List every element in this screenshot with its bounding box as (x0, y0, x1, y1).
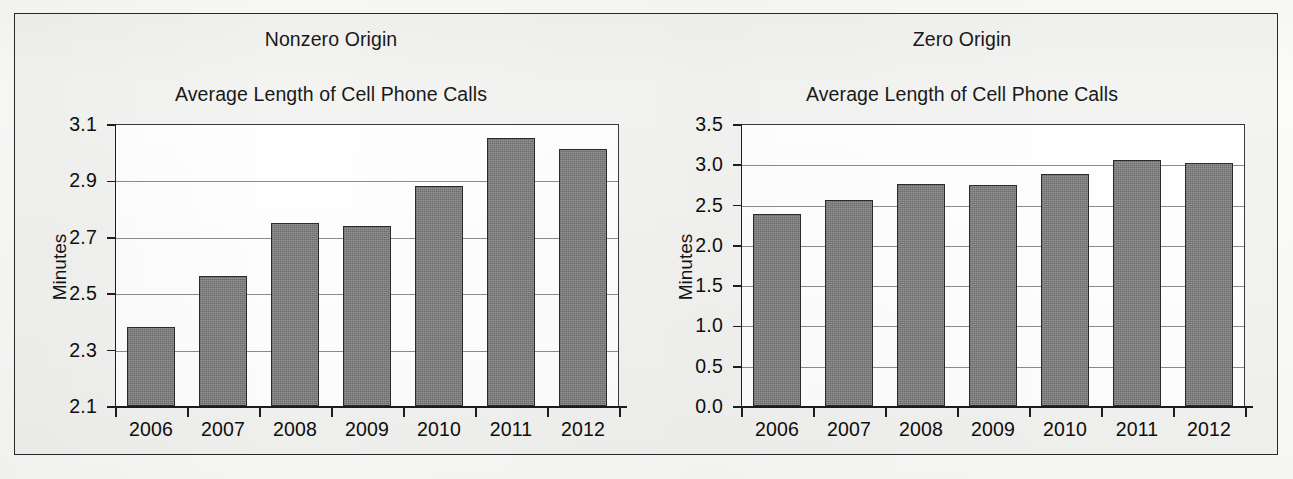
y-tick-label: 2.1 (69, 395, 97, 418)
y-tick-mark (733, 124, 742, 126)
y-tick-label: 2.5 (69, 282, 97, 305)
x-tick-label: 2009 (971, 418, 1015, 441)
bar (1113, 160, 1162, 406)
x-tick-mark (259, 406, 261, 417)
bar (127, 327, 176, 406)
x-tick-label: 2008 (273, 418, 317, 441)
y-tick-label: 0.5 (695, 354, 723, 377)
y-axis-tick-labels-left: 2.12.32.52.72.93.1 (43, 124, 105, 406)
x-tick-mark (187, 406, 189, 417)
bar (559, 149, 608, 406)
y-axis-tick-labels-right: 0.00.51.01.52.02.53.03.5 (669, 124, 731, 406)
x-tick-mark (619, 406, 621, 417)
figure-page: Nonzero Origin Average Length of Cell Ph… (0, 0, 1293, 479)
y-tick-label: 2.0 (695, 233, 723, 256)
chart-panel-nonzero-origin: Nonzero Origin Average Length of Cell Ph… (15, 14, 647, 456)
bar (271, 223, 320, 406)
y-tick-label: 0.0 (695, 395, 723, 418)
chart-title-left: Average Length of Cell Phone Calls (15, 83, 647, 106)
y-tick-mark (733, 164, 742, 166)
bar (897, 184, 946, 406)
bar (1185, 163, 1234, 406)
y-tick-mark (107, 350, 116, 352)
x-tick-mark (1173, 406, 1175, 417)
x-tick-label: 2009 (345, 418, 389, 441)
x-tick-label: 2011 (1116, 418, 1159, 441)
x-tick-mark (331, 406, 333, 417)
panel-heading-zero: Zero Origin (647, 28, 1277, 51)
y-tick-mark (733, 326, 742, 328)
x-tick-label: 2012 (561, 418, 605, 441)
y-tick-label: 3.5 (695, 113, 723, 136)
y-tick-mark (733, 285, 742, 287)
x-tick-label: 2010 (1043, 418, 1087, 441)
y-tick-mark (733, 245, 742, 247)
bar (343, 226, 392, 406)
x-tick-mark (1245, 406, 1247, 417)
x-tick-label: 2007 (201, 418, 245, 441)
bar (415, 186, 464, 406)
x-tick-label: 2012 (1187, 418, 1231, 441)
y-tick-label: 2.7 (69, 225, 97, 248)
y-tick-mark (107, 293, 116, 295)
bar-series-right (741, 124, 1245, 406)
x-tick-label: 2010 (417, 418, 461, 441)
y-tick-label: 3.1 (69, 113, 97, 136)
bar-series-left (115, 124, 619, 406)
x-tick-mark (1029, 406, 1031, 417)
x-tick-mark (957, 406, 959, 417)
x-tick-label: 2006 (755, 418, 799, 441)
x-axis-ticks-right (741, 406, 1245, 418)
x-tick-mark (741, 406, 743, 417)
y-tick-label: 1.5 (695, 274, 723, 297)
y-tick-label: 2.3 (69, 338, 97, 361)
y-tick-label: 1.0 (695, 314, 723, 337)
x-tick-label: 2011 (490, 418, 533, 441)
x-tick-label: 2006 (129, 418, 173, 441)
x-tick-label: 2008 (899, 418, 943, 441)
y-tick-label: 2.9 (69, 169, 97, 192)
bar (199, 276, 248, 406)
bar (487, 138, 536, 406)
y-tick-mark (107, 237, 116, 239)
x-axis-tick-labels-left: 2006200720082009201020112012 (115, 418, 619, 448)
y-tick-label: 3.0 (695, 153, 723, 176)
y-tick-mark (733, 205, 742, 207)
plot-right: Minutes 0.00.51.01.52.02.53.03.5 2006200… (669, 124, 1269, 444)
x-tick-mark (1101, 406, 1103, 417)
y-tick-mark (107, 181, 116, 183)
x-tick-mark (813, 406, 815, 417)
plot-left: Minutes 2.12.32.52.72.93.1 2006200720082… (43, 124, 643, 444)
chart-panel-zero-origin: Zero Origin Average Length of Cell Phone… (647, 14, 1277, 456)
panel-heading-nonzero: Nonzero Origin (15, 28, 647, 51)
figure-frame: Nonzero Origin Average Length of Cell Ph… (14, 13, 1278, 455)
bar (753, 214, 802, 406)
x-tick-mark (885, 406, 887, 417)
bar (969, 185, 1018, 406)
y-tick-label: 2.5 (695, 193, 723, 216)
x-axis-tick-labels-right: 2006200720082009201020112012 (741, 418, 1245, 448)
bar (825, 200, 874, 406)
chart-title-right: Average Length of Cell Phone Calls (647, 83, 1277, 106)
x-tick-mark (547, 406, 549, 417)
x-tick-label: 2007 (827, 418, 871, 441)
x-tick-mark (115, 406, 117, 417)
x-tick-mark (475, 406, 477, 417)
bar (1041, 174, 1090, 406)
x-tick-mark (403, 406, 405, 417)
y-tick-mark (107, 124, 116, 126)
y-tick-mark (733, 366, 742, 368)
x-axis-ticks-left (115, 406, 619, 418)
